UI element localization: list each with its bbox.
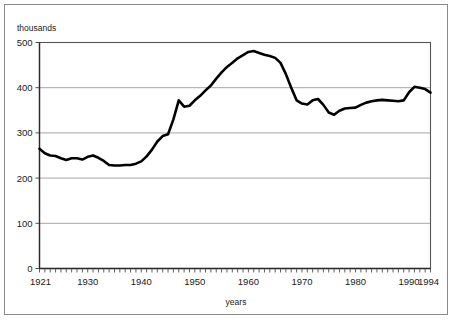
x-tick-label: 1994 [418,276,439,287]
x-axis-tick-labels: 192119301940195019601970198019901994 [30,276,439,287]
y-tick-label: 200 [17,173,33,184]
chart-figure: thousands 0100200300400500 1921193019401… [0,0,453,321]
x-tick-label: 1930 [77,276,98,287]
data-series-line [40,51,431,165]
x-tick-label: 1980 [345,276,366,287]
x-tick-label: 1950 [184,276,205,287]
y-tick-label: 100 [17,218,33,229]
gridlines-group [40,43,431,224]
x-tick-label: 1970 [291,276,312,287]
plot-area-border [40,43,431,269]
x-axis-title: years [226,297,247,307]
y-tick-label: 300 [17,127,33,138]
y-tick-label: 400 [17,82,33,93]
line-chart: 0100200300400500 19211930194019501960197… [0,0,453,321]
y-tick-label: 0 [27,263,32,274]
x-tick-label: 1960 [238,276,259,287]
x-tick-label: 1921 [30,276,51,287]
y-tick-label: 500 [17,37,33,48]
y-axis-tick-labels: 0100200300400500 [17,37,33,274]
x-tick-label: 1990 [399,276,420,287]
x-tick-label: 1940 [131,276,152,287]
